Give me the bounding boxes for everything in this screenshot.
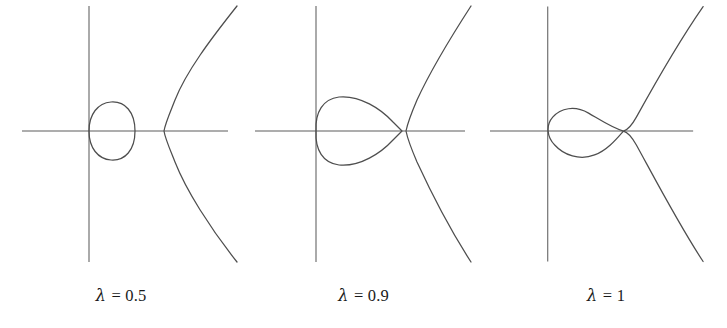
panel-lambda-0-9: λ = 0.9 — [243, 0, 485, 328]
lambda-symbol-1: λ — [95, 286, 107, 305]
unbounded-branch-2 — [406, 6, 471, 262]
lambda-value-1: 0.5 — [125, 286, 146, 305]
lambda-relation-1: = — [111, 286, 121, 305]
lambda-relation-3: = — [603, 286, 613, 305]
cubic-curve-plot-3 — [485, 0, 727, 282]
cubic-curve-plot-2 — [243, 0, 485, 282]
panel-lambda-1: λ = 1 — [485, 0, 727, 328]
panel-caption-2: λ = 0.9 — [338, 288, 389, 305]
figure-container: λ = 0.5 λ = 0.9 — [0, 0, 727, 328]
lambda-relation-2: = — [354, 286, 364, 305]
panel-lambda-0-5: λ = 0.5 — [0, 0, 242, 328]
lambda-symbol-2: λ — [338, 286, 350, 305]
nodal-cubic-3 — [548, 7, 703, 262]
plot-area-2 — [243, 0, 485, 282]
panel-caption-1: λ = 0.5 — [95, 288, 146, 305]
unbounded-branch-1 — [164, 6, 237, 262]
panel-caption-3: λ = 1 — [587, 288, 625, 305]
plot-area-3 — [485, 0, 727, 282]
lambda-value-2: 0.9 — [368, 286, 389, 305]
cubic-curve-plot-1 — [0, 0, 242, 282]
lambda-value-3: 1 — [617, 286, 625, 305]
plot-area-1 — [0, 0, 242, 282]
lambda-symbol-3: λ — [587, 286, 599, 305]
